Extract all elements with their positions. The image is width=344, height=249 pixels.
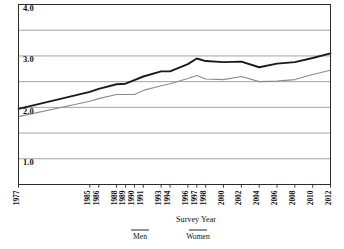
- x-axis-tick-label: 1989: [118, 190, 127, 205]
- grid-lines: [19, 5, 331, 185]
- y-axis-tick-label: 1.0: [23, 157, 34, 167]
- series-line-men: [19, 53, 331, 109]
- x-axis-tick-label: 2010: [306, 190, 315, 205]
- y-axis-tick-label: 3.0: [23, 54, 34, 64]
- x-axis-tick-label: 1997: [190, 190, 199, 205]
- x-axis-tick-label: 1990: [127, 190, 136, 205]
- x-axis-tick-label: 2008: [288, 190, 297, 205]
- legend-label-women: Women: [186, 232, 210, 241]
- x-axis-tick-label: 1988: [110, 190, 119, 205]
- x-axis-tick-label: 1985: [83, 190, 92, 205]
- legend-label-men: Men: [133, 232, 147, 241]
- chart-container: 1.02.03.04.0 197719851986198819891990199…: [0, 0, 344, 249]
- x-axis-title: Survey Year: [176, 215, 216, 224]
- x-axis-tick-label: 2000: [217, 190, 226, 205]
- x-axis-tick-label: 2006: [270, 190, 279, 205]
- x-axis-tick-label: 1996: [181, 190, 190, 205]
- x-axis-tick-label: 1994: [163, 190, 172, 205]
- x-axis-tick-label: 1986: [92, 190, 101, 205]
- x-axis-tick-label: 2012: [324, 190, 333, 205]
- x-axis-tick-label: 1977: [12, 190, 21, 205]
- x-axis-tick-label: 1998: [199, 190, 208, 205]
- y-axis-tick-label: 4.0: [23, 3, 34, 13]
- x-axis-tick-label: 1991: [136, 190, 145, 205]
- x-axis-tick-label: 1993: [154, 190, 163, 205]
- x-axis-tick-labels: 1977198519861988198919901991199319941996…: [12, 190, 333, 205]
- x-axis-tick-label: 2004: [252, 190, 261, 205]
- line-chart: 1.02.03.04.0 197719851986198819891990199…: [0, 0, 344, 249]
- series-line-women: [19, 70, 331, 116]
- y-axis-tick-labels: 1.02.03.04.0: [23, 3, 34, 167]
- x-axis-tick-label: 2002: [234, 190, 243, 205]
- y-axis-tick-label: 2.0: [23, 106, 34, 116]
- chart-legend: MenWomen: [131, 230, 210, 241]
- plot-frame: [19, 5, 331, 185]
